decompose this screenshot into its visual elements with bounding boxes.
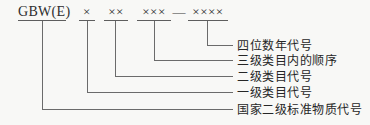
code-segment-sequence: ××× (137, 4, 171, 19)
code-segment-year: ×××× (188, 4, 228, 19)
callout-label-level1: 一级类目代号 (237, 87, 312, 100)
callout-label-year: 四位数年代号 (237, 40, 312, 53)
callout-label-level2: 二级类目代号 (237, 71, 312, 84)
callout-label-sequence: 三级类目内的顺序 (237, 55, 337, 68)
code-segment-level2: ×× (104, 4, 128, 19)
callout-label-national-crm: 国家二级标准物质代号 (237, 104, 362, 117)
connector-line-year (207, 21, 233, 46)
code-separator-dash: — (171, 4, 187, 19)
code-structure-diagram: GBW(E) × ×× ××× — ×××× 四位数年代号 三级类目内的顺序 二… (0, 0, 370, 125)
code-segment-level1: × (79, 4, 95, 19)
code-segment-prefix: GBW(E) (18, 4, 66, 19)
